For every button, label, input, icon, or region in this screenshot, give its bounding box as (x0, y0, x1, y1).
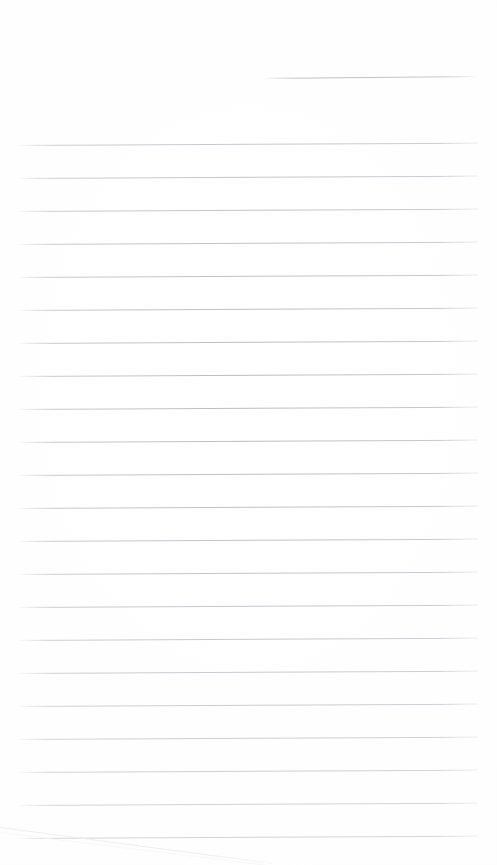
scanned-page (0, 0, 497, 865)
paper-surface (0, 0, 497, 865)
